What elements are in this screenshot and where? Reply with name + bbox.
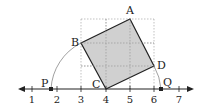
label-d: D [157,59,166,72]
label-a: A [125,4,135,17]
geometry-figure: 1 2 3 4 5 6 7 A B C D P Q [0,0,204,109]
label-p: P [41,77,49,90]
tick-label-1: 1 [29,94,35,105]
right-arrow-icon [187,86,194,92]
arc-b-to-p [51,43,81,89]
tick-label-4: 4 [103,94,109,105]
tick-label-7: 7 [176,94,182,105]
tick-label-6: 6 [151,94,157,105]
diagram-canvas: 1 2 3 4 5 6 7 A B C D P Q [0,0,204,109]
left-arrow-icon [18,86,25,92]
label-b: B [71,36,79,49]
tick-label-3: 3 [78,94,84,105]
tick-label-5: 5 [127,94,133,105]
label-q: Q [163,76,172,89]
tick-label-2: 2 [54,94,60,105]
point-p-marker [49,87,53,91]
label-c: C [92,78,100,91]
